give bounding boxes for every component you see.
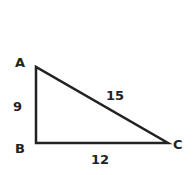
side-length-bc: 12 — [91, 152, 109, 167]
vertex-label-a: A — [15, 55, 25, 70]
vertex-label-b: B — [15, 141, 25, 156]
side-length-ac: 15 — [106, 88, 124, 103]
side-length-ab: 9 — [13, 99, 22, 114]
triangle-diagram: A B C 9 15 12 — [0, 0, 193, 175]
triangle-abc — [36, 67, 168, 143]
vertex-label-c: C — [173, 137, 183, 152]
